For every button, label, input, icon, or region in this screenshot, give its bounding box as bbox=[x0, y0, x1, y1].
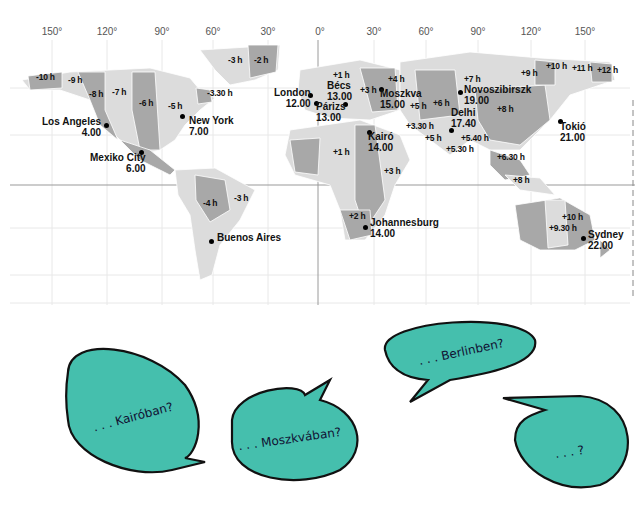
city-dot-icon bbox=[363, 225, 368, 230]
city-label: Johannesburg14.00 bbox=[370, 217, 439, 239]
time-offset-label: +1 h bbox=[333, 147, 349, 157]
time-offset-label: +8 h bbox=[513, 175, 529, 185]
time-offset-label: +5.40 h bbox=[461, 133, 489, 143]
time-offset-label: -4 h bbox=[203, 198, 217, 208]
city-name: Kairó bbox=[368, 131, 394, 142]
city-label: Tokió21.00 bbox=[560, 121, 586, 143]
city-name: Moszkva bbox=[380, 88, 422, 99]
city-name: Mexiko City bbox=[90, 152, 146, 163]
city-name: Buenos Aires bbox=[217, 232, 281, 243]
time-offset-label: -3.30 h bbox=[207, 88, 233, 98]
city-dot-icon bbox=[581, 236, 586, 241]
city-dot-icon bbox=[180, 114, 185, 119]
longitude-label: 120° bbox=[521, 26, 542, 37]
city-label: Kairó14.00 bbox=[368, 131, 394, 153]
time-offset-label: -6 h bbox=[139, 98, 153, 108]
time-offset-label: +5.30 h bbox=[446, 144, 474, 154]
time-offset-label: +7 h bbox=[464, 74, 480, 84]
time-offset-label: +6.30 h bbox=[497, 152, 525, 162]
city-dot-icon bbox=[458, 90, 463, 95]
longitude-label: 90° bbox=[154, 26, 169, 37]
city-label: Moszkva15.00 bbox=[380, 88, 422, 110]
city-label: Delhi17.40 bbox=[451, 107, 476, 129]
longitude-label: 30° bbox=[260, 26, 275, 37]
city-time: 15.00 bbox=[380, 99, 422, 110]
city-label: Sydney22.00 bbox=[588, 229, 624, 251]
city-label: Novoszibirszk19.00 bbox=[464, 84, 531, 106]
city-time: 4.00 bbox=[42, 127, 101, 138]
time-offset-label: +5 h bbox=[425, 133, 441, 143]
city-name: Sydney bbox=[588, 229, 624, 240]
time-offset-label: -8 h bbox=[89, 89, 103, 99]
city-dot-icon bbox=[104, 123, 109, 128]
city-time: 19.00 bbox=[464, 95, 531, 106]
time-offset-label: -5 h bbox=[168, 101, 182, 111]
time-offset-label: +3.30 h bbox=[406, 121, 434, 131]
time-offset-label: +1 h bbox=[333, 70, 349, 80]
longitude-label: 120° bbox=[97, 26, 118, 37]
time-offset-label: +12 h bbox=[597, 65, 618, 75]
city-label: Buenos Aires bbox=[217, 232, 281, 243]
time-offset-label: +3 h bbox=[384, 166, 400, 176]
longitude-label: 30° bbox=[366, 26, 381, 37]
city-label: Bécs13.00 bbox=[327, 80, 352, 102]
time-offset-label: +10 h bbox=[546, 61, 567, 71]
city-label: New York7.00 bbox=[189, 115, 234, 137]
city-label: Los Angeles4.00 bbox=[42, 116, 101, 138]
city-time: 14.00 bbox=[368, 142, 394, 153]
longitude-label: 60° bbox=[418, 26, 433, 37]
city-name: Novoszibirszk bbox=[464, 84, 531, 95]
time-offset-label: -3 h bbox=[234, 193, 248, 203]
longitude-label: 150° bbox=[575, 26, 596, 37]
time-offset-label: +11 h bbox=[572, 63, 593, 73]
time-offset-label: -2 h bbox=[254, 55, 268, 65]
time-offset-label: +2 h bbox=[349, 211, 365, 221]
city-dot-icon bbox=[209, 239, 214, 244]
city-time: 14.00 bbox=[370, 228, 439, 239]
city-label: Párizs13.00 bbox=[316, 101, 345, 123]
city-time: 12.00 bbox=[274, 98, 311, 109]
time-offset-label: +6 h bbox=[433, 98, 449, 108]
time-offset-label: -10 h bbox=[36, 72, 55, 82]
city-time: 7.00 bbox=[189, 126, 234, 137]
city-time: 17.40 bbox=[451, 118, 476, 129]
city-time: 6.00 bbox=[90, 163, 146, 174]
longitude-label: 90° bbox=[470, 26, 485, 37]
city-name: Johannesburg bbox=[370, 217, 439, 228]
time-offset-label: +3 h bbox=[360, 85, 376, 95]
world-time-zone-map: 150°120°90°60°30°0°30°60°90°120°150° -10… bbox=[0, 0, 643, 310]
city-name: Bécs bbox=[327, 80, 352, 91]
longitude-label: 0° bbox=[315, 26, 325, 37]
city-name: Los Angeles bbox=[42, 116, 101, 127]
city-name: London bbox=[274, 87, 311, 98]
time-offset-label: +4 h bbox=[388, 74, 404, 84]
city-name: Párizs bbox=[316, 101, 345, 112]
city-label: Mexiko City6.00 bbox=[90, 152, 146, 174]
city-name: Tokió bbox=[560, 121, 586, 132]
time-offset-label: +10 h bbox=[562, 212, 583, 222]
speech-bubbles-graphic bbox=[0, 308, 643, 508]
time-offset-label: -7 h bbox=[112, 87, 126, 97]
city-name: New York bbox=[189, 115, 234, 126]
city-time: 13.00 bbox=[316, 112, 345, 123]
city-label: London12.00 bbox=[274, 87, 311, 109]
time-offset-label: -9 h bbox=[68, 75, 82, 85]
city-time: 21.00 bbox=[560, 132, 586, 143]
time-offset-label: -3 h bbox=[228, 55, 242, 65]
longitude-label: 60° bbox=[205, 26, 220, 37]
longitude-label: 150° bbox=[42, 26, 63, 37]
city-name: Delhi bbox=[451, 107, 476, 118]
time-offset-label: +9.30 h bbox=[549, 223, 577, 233]
city-time: 22.00 bbox=[588, 240, 624, 251]
time-offset-label: +9 h bbox=[521, 68, 537, 78]
